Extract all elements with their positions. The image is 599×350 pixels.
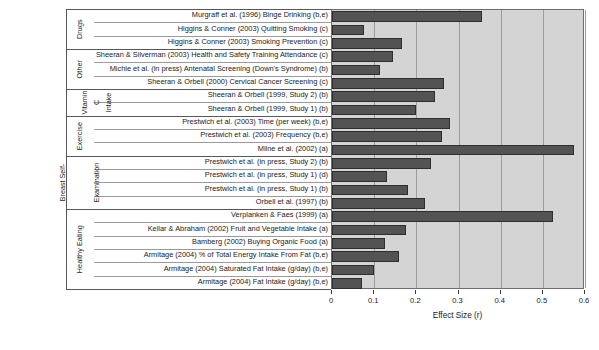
study-label: Higgins & Conner (2003) Smoking Preventi…	[168, 38, 328, 45]
group-label-healthy-eating: Healthy Eating	[66, 209, 94, 289]
group-label-text: Healthy Eating	[76, 225, 84, 273]
study-label: Bamberg (2002) Buying Organic Food (a)	[192, 238, 328, 245]
x-axis-tick	[458, 290, 459, 294]
x-axis-tick	[331, 290, 332, 294]
group-label-other: Other	[66, 49, 94, 89]
x-axis-tick	[500, 290, 501, 294]
bar	[332, 171, 387, 182]
study-label: Kellar & Abraham (2002) Fruit and Vegeta…	[148, 225, 328, 232]
group-label-part: Intake	[105, 93, 114, 113]
x-axis-tick-label: 0	[329, 296, 333, 305]
group-rule	[66, 49, 331, 50]
bar	[332, 225, 406, 236]
bar	[332, 278, 362, 289]
x-axis-tick-label: 0.3	[452, 296, 463, 305]
x-axis-tick-label: 0.1	[368, 296, 379, 305]
study-label: Armitage (2004) Fat Intake (g/day) (b,e)	[198, 278, 328, 285]
study-label: Sheeran & Orbell (1999, Study 1) (b)	[208, 105, 328, 112]
study-label: Prestwich et al. (2003) Time (per week) …	[182, 118, 328, 125]
bar	[332, 91, 435, 102]
bar	[332, 25, 364, 36]
bar	[332, 38, 402, 49]
x-axis-tick-label: 0.5	[537, 296, 548, 305]
bar	[332, 118, 450, 129]
plot-area	[331, 9, 584, 289]
bar	[332, 198, 425, 209]
x-axis-title: Effect Size (r)	[331, 311, 584, 320]
bar	[332, 105, 416, 116]
group-rule	[66, 116, 331, 117]
x-axis-tick	[415, 290, 416, 294]
group-label-part: Breast Self-	[58, 164, 67, 202]
bar	[332, 211, 553, 222]
group-rule	[66, 9, 331, 10]
bar	[332, 131, 442, 142]
group-label-text: Other	[76, 60, 84, 78]
bar	[332, 51, 393, 62]
bar	[332, 65, 380, 76]
x-axis-tick-label: 0.2	[410, 296, 421, 305]
bar	[332, 11, 482, 22]
group-label-part: Examination	[92, 163, 101, 203]
study-label: Prestwich et al. (in press, Study 1) (b)	[205, 185, 328, 192]
bar	[332, 251, 399, 262]
group-rule	[66, 289, 331, 290]
group-label-exercise: Exercise	[66, 116, 94, 156]
study-label: Verplanken & Faes (1999) (a)	[231, 211, 328, 218]
study-label: Michie et al. (in press) Antenatal Scree…	[110, 65, 328, 72]
study-label: Murgraff et al. (1996) Binge Drinking (b…	[192, 11, 328, 18]
group-rule	[66, 156, 331, 157]
study-label: Sheeran & Orbell (2000) Cervical Cancer …	[147, 78, 328, 85]
study-label: Prestwich et al. (2003) Frequency (b,e)	[200, 131, 328, 138]
study-label-column: Murgraff et al. (1996) Binge Drinking (b…	[0, 9, 331, 289]
x-axis-tick	[542, 290, 543, 294]
study-label: Armitage (2004) Saturated Fat Intake (g/…	[164, 265, 328, 272]
bar	[332, 158, 431, 169]
group-label-part: Vitamin	[81, 90, 90, 114]
study-label: Sheeran & Orbell (1999, Study 2) (b)	[208, 91, 328, 98]
group-label-breast-self-examination: Breast Self-Examination	[66, 156, 94, 209]
study-label: Higgins & Conner (2003) Quitting Smoking…	[178, 25, 328, 32]
bar	[332, 238, 385, 249]
study-label: Orbell et al. (1997) (b)	[256, 198, 328, 205]
study-label: Milne et al. (2002) (a)	[258, 145, 328, 152]
bar	[332, 145, 574, 156]
gridline	[585, 10, 586, 288]
bar	[332, 185, 408, 196]
study-label: Sheeran & Silverman (2003) Health and Sa…	[96, 51, 328, 58]
x-axis-tick-label: 0.6	[579, 296, 590, 305]
study-label: Prestwich et al. (in press, Study 2) (b)	[205, 158, 328, 165]
group-label-text: Drugs	[76, 19, 84, 39]
study-label: Armitage (2004) % of Total Energy Intake…	[144, 251, 328, 258]
bar	[332, 265, 374, 276]
group-rule	[66, 209, 331, 210]
effect-size-bar-chart-figure: Murgraff et al. (1996) Binge Drinking (b…	[0, 0, 599, 350]
x-axis-tick-label: 0.4	[494, 296, 505, 305]
group-label-part: C	[92, 100, 101, 105]
x-axis-tick	[584, 290, 585, 294]
x-axis-tick	[373, 290, 374, 294]
bar	[332, 78, 444, 89]
group-label-text: Exercise	[76, 121, 84, 149]
study-label: Prestwich et al. (in press, Study 1) (d)	[205, 171, 328, 178]
group-label-drugs: Drugs	[66, 9, 94, 49]
group-label-vitamin-c-intake: VitaminCIntake	[66, 89, 126, 116]
